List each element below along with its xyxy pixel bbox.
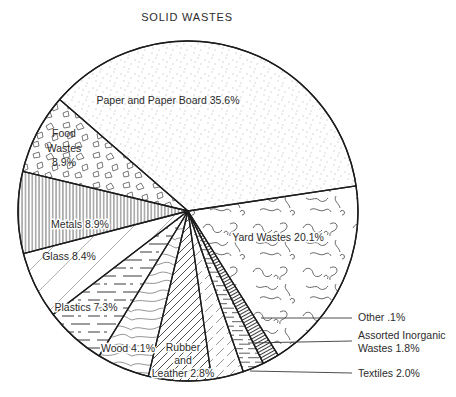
label-food-line-1: Wastes: [47, 142, 82, 154]
label-rubber-line-1: and: [174, 354, 192, 366]
label-yard-line-0: Yard Wastes 20.1%: [232, 231, 324, 243]
pie-slices: [18, 41, 358, 381]
label-metals: Metals 8.9%: [51, 218, 109, 230]
label-food-line-0: Food: [52, 127, 76, 139]
label-rubber-line-2: Leather 2.8%: [152, 367, 214, 379]
label-plastics: Plastics 7.3%: [54, 301, 117, 313]
label-assorted: Assorted InorganicWastes 1.8%: [358, 329, 446, 354]
label-assorted-line-0: Assorted Inorganic: [358, 329, 446, 341]
label-wood-line-0: Wood 4.1%: [101, 342, 155, 354]
label-paper-line-0: Paper and Paper Board 35.6%: [96, 94, 239, 106]
label-textiles-line-0: Textiles 2.0%: [358, 367, 420, 379]
solid-wastes-pie-chart: SOLID WASTES Paper and Paper Board 35.6%…: [0, 0, 456, 397]
label-assorted-line-1: Wastes 1.8%: [358, 342, 419, 354]
label-rubber-line-0: Rubber: [166, 341, 201, 353]
label-glass-line-0: Glass 8.4%: [42, 250, 96, 262]
label-glass: Glass 8.4%: [42, 250, 96, 262]
label-yard: Yard Wastes 20.1%: [232, 231, 324, 243]
leader-textiles: [250, 371, 352, 373]
label-wood: Wood 4.1%: [101, 342, 155, 354]
label-textiles: Textiles 2.0%: [358, 367, 420, 379]
label-other-line-0: Other .1%: [358, 311, 405, 323]
label-plastics-line-0: Plastics 7.3%: [54, 301, 117, 313]
label-metals-line-0: Metals 8.9%: [51, 218, 109, 230]
label-paper: Paper and Paper Board 35.6%: [96, 94, 239, 106]
label-other: Other .1%: [358, 311, 405, 323]
label-food-line-2: 8.9%: [52, 156, 76, 168]
chart-title: SOLID WASTES: [141, 11, 233, 23]
pie-chart-figure: SOLID WASTES Paper and Paper Board 35.6%…: [0, 0, 456, 397]
